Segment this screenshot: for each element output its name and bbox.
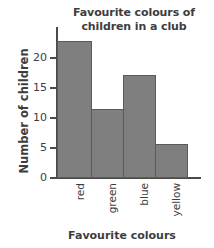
x-axis-title: Favourite colours — [34, 229, 210, 242]
bar-blue[interactable] — [123, 75, 156, 178]
y-tick-mark-20 — [50, 57, 57, 59]
y-tick-mark-10 — [50, 117, 57, 119]
y-tick-label-10: 10 — [17, 112, 47, 123]
y-tick-mark-5 — [50, 147, 57, 149]
y-tick-label-15: 15 — [17, 82, 47, 93]
bar-yellow[interactable] — [155, 144, 188, 178]
y-tick-label-0: 0 — [17, 172, 47, 183]
y-tick-mark-0 — [50, 177, 57, 179]
bar-green[interactable] — [91, 109, 124, 178]
plot-area — [57, 27, 201, 178]
bar-chart-figure: Favourite colours of children in a club … — [0, 0, 214, 248]
chart-title-line-1: Favourite colours of — [58, 6, 210, 20]
bar-red[interactable] — [57, 41, 92, 178]
y-tick-label-5: 5 — [17, 142, 47, 153]
y-tick-mark-15 — [50, 87, 57, 89]
y-tick-label-20: 20 — [17, 52, 47, 63]
